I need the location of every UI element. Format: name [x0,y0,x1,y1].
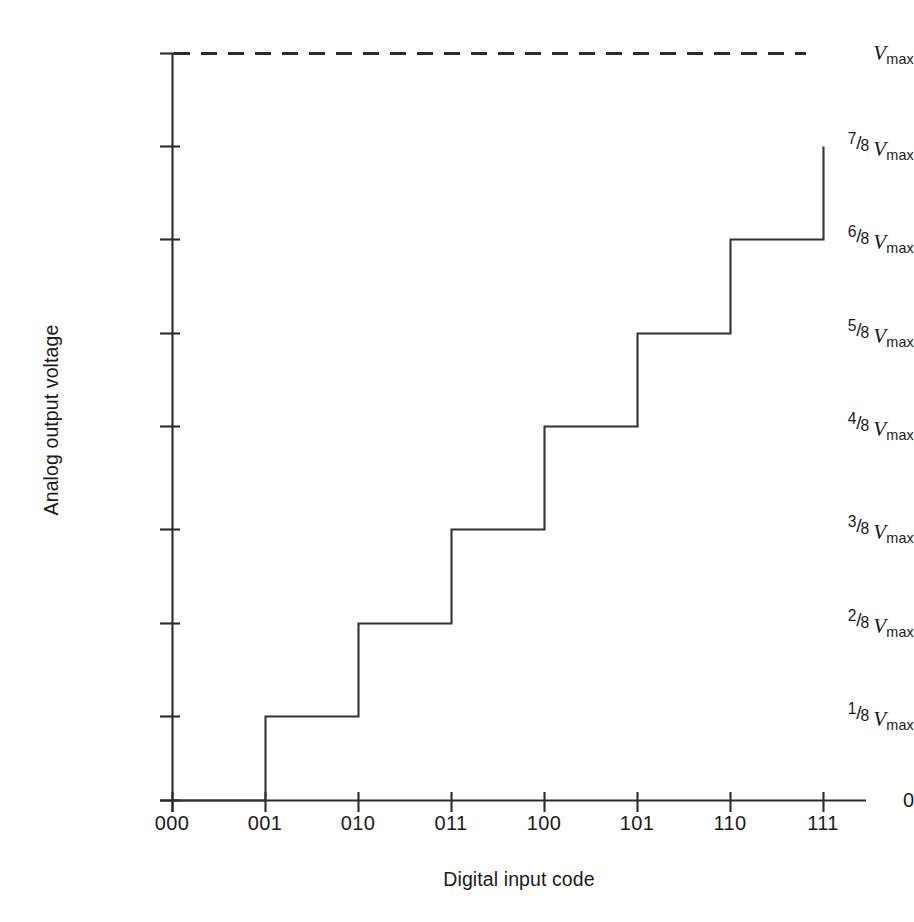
staircase-curve [173,147,824,801]
dac-transfer-characteristic-chart: Analog output voltage Vmax 7/8Vmax 6/8Vm… [0,0,914,922]
x-tick-marks [173,792,824,812]
plot-area [0,0,914,922]
